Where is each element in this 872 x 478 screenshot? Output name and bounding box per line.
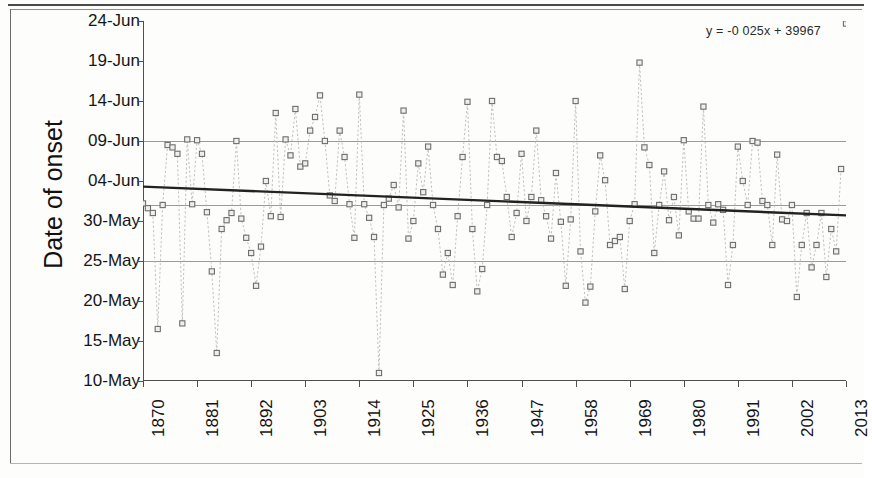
data-point-marker — [426, 144, 431, 149]
data-point-marker — [342, 154, 347, 159]
data-point-marker — [593, 209, 598, 214]
data-point-marker — [671, 194, 676, 199]
data-point-marker — [789, 202, 794, 207]
x-axis-tick-labels: 1870188118921903191419251936194719581969… — [143, 389, 853, 469]
data-point-marker — [229, 210, 234, 215]
x-axis-tick-label: 1936 — [473, 399, 493, 437]
data-point-marker — [814, 242, 819, 247]
data-point-marker — [249, 250, 254, 255]
data-point-marker — [362, 202, 367, 207]
data-point-marker — [568, 217, 573, 222]
x-axis-tick-label: 1870 — [149, 399, 169, 437]
data-point-marker — [367, 215, 372, 220]
data-point-marker — [504, 194, 509, 199]
data-point-marker — [563, 283, 568, 288]
data-point-marker — [534, 128, 539, 133]
data-point-marker — [489, 98, 494, 103]
data-point-marker — [455, 214, 460, 219]
x-axis-tick-label: 1991 — [744, 399, 764, 437]
data-point-marker — [681, 138, 686, 143]
data-point-marker — [288, 153, 293, 158]
data-point-marker — [150, 210, 155, 215]
data-point-marker — [829, 226, 834, 231]
data-point-marker — [676, 233, 681, 238]
y-axis-tick-label: 14-Jun — [62, 91, 140, 111]
data-point-marker — [617, 234, 622, 239]
data-point-marker — [706, 202, 711, 207]
data-point-marker — [583, 300, 588, 305]
data-point-marker — [352, 235, 357, 240]
series-markers — [143, 21, 846, 376]
data-point-marker — [273, 110, 278, 115]
x-axis-tick-mark — [359, 381, 360, 387]
data-point-marker — [519, 151, 524, 156]
data-point-marker — [185, 137, 190, 142]
data-point-marker — [716, 202, 721, 207]
data-point-marker — [445, 250, 450, 255]
data-point-marker — [755, 140, 760, 145]
data-point-marker — [843, 21, 846, 26]
data-point-marker — [460, 154, 465, 159]
data-series-plot — [143, 21, 846, 381]
data-point-marker — [312, 114, 317, 119]
data-point-marker — [730, 242, 735, 247]
data-point-marker — [283, 137, 288, 142]
data-point-marker — [421, 190, 426, 195]
data-point-marker — [485, 202, 490, 207]
data-point-marker — [470, 226, 475, 231]
data-point-marker — [239, 216, 244, 221]
data-point-marker — [396, 205, 401, 210]
x-axis-tick-mark — [630, 381, 631, 387]
data-point-marker — [770, 242, 775, 247]
y-axis-tick-label: 15-May — [62, 331, 140, 351]
data-point-marker — [430, 202, 435, 207]
data-point-marker — [834, 249, 839, 254]
data-point-marker — [745, 202, 750, 207]
data-point-marker — [322, 138, 327, 143]
data-point-marker — [637, 60, 642, 65]
data-point-marker — [666, 218, 671, 223]
data-point-marker — [401, 108, 406, 113]
data-point-marker — [799, 242, 804, 247]
y-axis-tick-labels: 10-May15-May20-May25-May30-May04-Jun09-J… — [58, 0, 140, 478]
data-point-marker — [214, 350, 219, 355]
data-point-marker — [598, 153, 603, 158]
data-point-marker — [558, 219, 563, 224]
data-point-marker — [406, 236, 411, 241]
trendline-equation-label: y = -0 025x + 39967 — [706, 24, 821, 38]
data-point-marker — [224, 218, 229, 223]
data-point-marker — [627, 218, 632, 223]
y-axis-tick-label: 10-May — [62, 371, 140, 391]
data-point-marker — [308, 128, 313, 133]
data-point-marker — [204, 210, 209, 215]
data-point-marker — [809, 265, 814, 270]
data-point-marker — [303, 161, 308, 166]
data-point-marker — [475, 289, 480, 294]
data-point-marker — [160, 202, 165, 207]
data-point-marker — [440, 272, 445, 277]
y-axis-tick-label: 04-Jun — [62, 171, 140, 191]
data-point-marker — [376, 370, 381, 375]
data-point-marker — [253, 283, 258, 288]
x-axis-tick-label: 1914 — [365, 399, 385, 437]
data-point-marker — [578, 249, 583, 254]
data-point-marker — [219, 226, 224, 231]
x-axis-tick-mark — [522, 381, 523, 387]
data-point-marker — [824, 274, 829, 279]
x-axis-tick-label: 1881 — [203, 399, 223, 437]
data-point-marker — [170, 145, 175, 150]
data-point-marker — [268, 214, 273, 219]
data-point-marker — [199, 151, 204, 156]
plot-area — [143, 21, 846, 381]
data-point-marker — [465, 99, 470, 104]
x-axis-tick-mark — [576, 381, 577, 387]
data-point-marker — [529, 194, 534, 199]
data-point-marker — [175, 151, 180, 156]
data-point-marker — [263, 178, 268, 183]
data-point-marker — [293, 106, 298, 111]
x-axis-tick-label: 1969 — [636, 399, 656, 437]
x-axis-tick-label: 1958 — [582, 399, 602, 437]
data-point-marker — [784, 218, 789, 223]
data-point-marker — [544, 214, 549, 219]
